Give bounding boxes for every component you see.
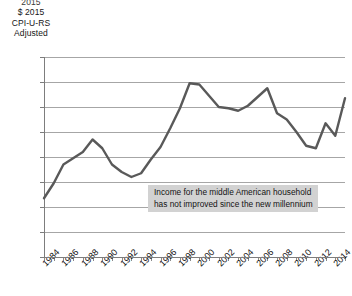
y-axis-title-line-3: Adjusted xyxy=(0,28,62,39)
plot-area: 6000058000560005400052000500004800046000… xyxy=(44,57,345,257)
y-axis-title: 2015 $ 2015 CPI-U-RS Adjusted xyxy=(0,0,62,39)
median-income-polyline xyxy=(44,83,345,198)
x-axis-line xyxy=(44,257,345,258)
y-axis-title-clipped-line: 2015 xyxy=(0,0,62,7)
data-series-line xyxy=(44,57,345,257)
annotation-callout: Income for the middle American household… xyxy=(148,185,318,212)
y-axis-title-line-1: $ 2015 xyxy=(0,7,62,18)
annotation-line-1: Income for the middle American household xyxy=(154,187,313,199)
annotation-line-2: has not improved since the new millenniu… xyxy=(154,199,313,211)
chart-container: 2015 $ 2015 CPI-U-RS Adjusted 6000058000… xyxy=(0,0,352,296)
y-axis-title-line-2: CPI-U-RS xyxy=(0,18,62,29)
